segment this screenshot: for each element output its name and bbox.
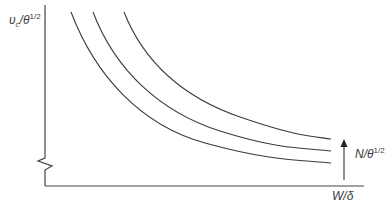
x-axis-label: W/δ	[332, 189, 353, 203]
chart-plot	[0, 0, 389, 205]
y-axis	[38, 5, 52, 186]
curve-low	[71, 12, 331, 163]
curve-mid	[93, 12, 331, 151]
curve-high	[124, 12, 331, 139]
parameter-label: N/θ1/2	[355, 146, 385, 161]
y-axis-label: υc/θ1/2	[9, 12, 41, 29]
arrow-up-icon	[341, 139, 348, 147]
